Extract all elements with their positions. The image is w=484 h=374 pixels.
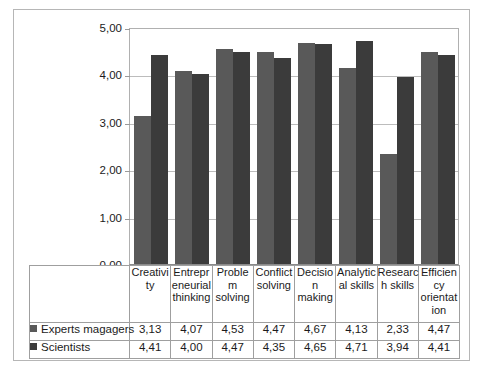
category-label-line: h skills	[378, 279, 418, 292]
category-label-line: cy	[419, 279, 459, 292]
y-axis-tick-label: 3,00	[52, 118, 122, 129]
data-value-cell: 4,47	[418, 323, 459, 341]
category-label-line: Researc	[378, 266, 418, 279]
y-axis-tick-label: 5,00	[52, 23, 122, 34]
category-label-line: al skills	[336, 279, 376, 292]
legend-item-series-2[interactable]: Scientists	[30, 341, 130, 359]
data-value-cell: 4,47	[212, 341, 253, 359]
category-header-cell: Analytical skills	[336, 266, 377, 323]
category-header-cell: Problemsolving	[212, 266, 253, 323]
category-label-line: Analytic	[336, 266, 376, 279]
data-value-cell: 3,94	[377, 341, 418, 359]
bar-group	[171, 29, 212, 264]
category-header-cell: Efficiencyorientation	[418, 266, 459, 323]
bar-series-2[interactable]	[192, 74, 209, 264]
bar-series-1[interactable]	[421, 52, 438, 264]
legend-item-series-1[interactable]: Experts magagers	[30, 323, 130, 341]
y-axis-tick-label: 4,00	[52, 70, 122, 81]
data-value-cell: 2,33	[377, 323, 418, 341]
category-label-line: Entrepr	[171, 266, 211, 279]
bar-series-2[interactable]	[151, 55, 168, 264]
category-header-cell: Conflictsolving	[253, 266, 294, 323]
category-label-line: n	[295, 279, 335, 292]
data-value-cell: 4,07	[171, 323, 212, 341]
y-axis-tick-label: 1,00	[52, 213, 122, 224]
category-label-line: eneurial	[171, 279, 211, 292]
legend-label-series-2: Scientists	[41, 341, 90, 353]
category-header-cell: Research skills	[377, 266, 418, 323]
category-label-line: Creativi	[130, 266, 170, 279]
bar-series-2[interactable]	[233, 52, 250, 264]
category-header-cell: Entrepreneurialthinking	[171, 266, 212, 323]
data-value-cell: 3,13	[130, 323, 171, 341]
category-label-line: solving	[254, 279, 294, 292]
bar-series-2[interactable]	[438, 55, 455, 264]
data-value-cell: 4,13	[336, 323, 377, 341]
category-label-line: Decisio	[295, 266, 335, 279]
bar-group	[417, 29, 458, 264]
bar-group	[376, 29, 417, 264]
table-corner-cell	[30, 266, 130, 323]
category-label-line: Proble	[213, 266, 253, 279]
category-label-line: ion	[419, 304, 459, 317]
category-label-line: m	[213, 279, 253, 292]
bar-group	[294, 29, 335, 264]
bar-series-1[interactable]	[339, 68, 356, 264]
category-label-line: solving	[213, 291, 253, 304]
y-axis-tick-label: 2,00	[52, 165, 122, 176]
chart-frame: 5,004,003,002,001,000,00 CreativityEntre…	[13, 9, 470, 361]
data-value-cell: 4,71	[336, 341, 377, 359]
legend-label-series-1: Experts magagers	[41, 323, 134, 335]
table-row-series-2: Scientists 4,414,004,474,354,654,713,944…	[30, 341, 460, 359]
bar-series-1[interactable]	[134, 116, 151, 264]
data-value-cell: 4,65	[295, 341, 336, 359]
category-label-line: thinking	[171, 291, 211, 304]
data-value-cell: 4,53	[212, 323, 253, 341]
bar-series-2[interactable]	[315, 44, 332, 264]
category-label-line: orientat	[419, 291, 459, 304]
category-header-cell: Creativity	[130, 266, 171, 323]
bar-group	[130, 29, 171, 264]
data-value-cell: 4,41	[418, 341, 459, 359]
bar-series-1[interactable]	[216, 49, 233, 264]
bar-series-1[interactable]	[380, 154, 397, 264]
bar-group	[212, 29, 253, 264]
data-value-cell: 4,00	[171, 341, 212, 359]
bar-series-1[interactable]	[257, 52, 274, 264]
bar-group	[253, 29, 294, 264]
bar-series-2[interactable]	[274, 58, 291, 264]
bar-groups	[130, 29, 458, 264]
category-label-line: ty	[130, 279, 170, 292]
data-value-cell: 4,41	[130, 341, 171, 359]
bar-series-2[interactable]	[397, 77, 414, 264]
data-value-cell: 4,35	[253, 341, 294, 359]
data-value-cell: 4,47	[253, 323, 294, 341]
bar-series-1[interactable]	[175, 71, 192, 264]
bar-group	[335, 29, 376, 264]
legend-swatch-icon-series-2	[30, 343, 37, 350]
category-label-line: making	[295, 291, 335, 304]
category-label-line: Conflict	[254, 266, 294, 279]
table-row-category-headers: CreativityEntrepreneurialthinkingProblem…	[30, 266, 460, 323]
data-table: CreativityEntrepreneurialthinkingProblem…	[29, 265, 460, 359]
plot-area: 5,004,003,002,001,000,00	[129, 28, 459, 265]
table-row-series-1: Experts magagers 3,134,074,534,474,674,1…	[30, 323, 460, 341]
bar-series-2[interactable]	[356, 41, 373, 264]
category-header-cell: Decisionmaking	[295, 266, 336, 323]
legend-swatch-icon-series-1	[30, 325, 37, 332]
bar-series-1[interactable]	[298, 43, 315, 264]
data-value-cell: 4,67	[295, 323, 336, 341]
category-label-line: Efficien	[419, 266, 459, 279]
